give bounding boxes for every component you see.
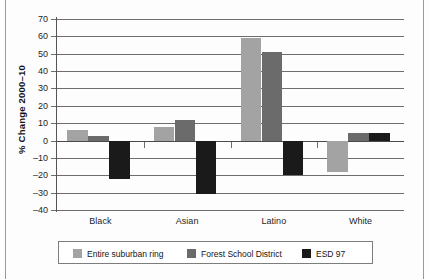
y-axis-tick <box>51 19 56 20</box>
gridline <box>57 88 404 89</box>
y-axis-tick-label: –40 <box>33 205 48 215</box>
category-separator <box>231 142 232 148</box>
bar <box>109 141 130 179</box>
y-axis-tick <box>51 36 56 37</box>
bar <box>154 127 175 141</box>
y-axis-tick <box>51 123 56 124</box>
gridline <box>57 54 404 55</box>
gridline <box>57 71 404 72</box>
bar-chart: % Change 2000–10 706050403020100–10–20–3… <box>0 0 429 279</box>
bar <box>327 141 348 172</box>
y-axis-tick-label: 70 <box>38 14 48 24</box>
x-axis-labels: BlackAsianLatinoWhite <box>57 216 404 230</box>
legend-label: ESD 97 <box>316 249 345 259</box>
category-separator <box>144 142 145 148</box>
y-axis-tick <box>51 158 56 159</box>
bar <box>67 130 88 140</box>
gridline <box>57 36 404 37</box>
y-axis-tick <box>51 54 56 55</box>
bar <box>88 136 109 140</box>
y-axis-tick <box>51 106 56 107</box>
legend-label: Forest School District <box>201 249 282 259</box>
y-axis-tick <box>51 210 56 211</box>
y-axis-title: % Change 2000–10 <box>16 45 27 175</box>
legend-item[interactable]: Entire suburban ring <box>73 247 164 260</box>
chart-legend: Entire suburban ringForest School Distri… <box>58 241 373 264</box>
y-axis-tick-label: 40 <box>38 66 48 76</box>
y-axis-tick-label: –20 <box>33 170 48 180</box>
bar <box>175 120 196 141</box>
y-axis-tick <box>51 71 56 72</box>
y-axis-tick-label: 0 <box>43 136 48 146</box>
y-axis-tick-label: 60 <box>38 31 48 41</box>
bar <box>262 52 283 141</box>
x-axis-tick-label: White <box>349 216 372 226</box>
bar <box>196 141 217 195</box>
y-axis-tick <box>51 193 56 194</box>
bar <box>241 38 262 140</box>
y-axis-tick-label: –30 <box>33 188 48 198</box>
category-separator <box>317 142 318 148</box>
y-axis-tick-label: –10 <box>33 153 48 163</box>
x-axis-tick-label: Asian <box>176 216 199 226</box>
y-axis-tick <box>51 88 56 89</box>
legend-item[interactable]: ESD 97 <box>302 247 345 260</box>
bar <box>369 133 390 141</box>
gridline <box>57 106 404 107</box>
gridline <box>57 193 404 194</box>
bar <box>348 133 369 141</box>
legend-swatch-icon <box>302 249 311 258</box>
bar <box>283 141 304 176</box>
x-axis-tick-label: Black <box>89 216 111 226</box>
gridline <box>57 210 404 211</box>
legend-swatch-icon <box>73 249 82 258</box>
plot-area: 706050403020100–10–20–30–40 <box>57 19 404 210</box>
y-axis-tick-label: 50 <box>38 49 48 59</box>
y-axis-tick-label: 10 <box>38 118 48 128</box>
legend-swatch-icon <box>187 249 196 258</box>
legend-item[interactable]: Forest School District <box>187 247 282 260</box>
y-axis-tick-label: 20 <box>38 101 48 111</box>
legend-label: Entire suburban ring <box>87 249 164 259</box>
gridline <box>57 19 404 20</box>
y-axis-tick <box>51 141 56 142</box>
x-axis-tick-label: Latino <box>262 216 287 226</box>
y-axis-tick-label: 30 <box>38 83 48 93</box>
y-axis-tick <box>51 175 56 176</box>
page-canvas: % Change 2000–10 706050403020100–10–20–3… <box>0 0 429 279</box>
gridline <box>57 123 404 124</box>
